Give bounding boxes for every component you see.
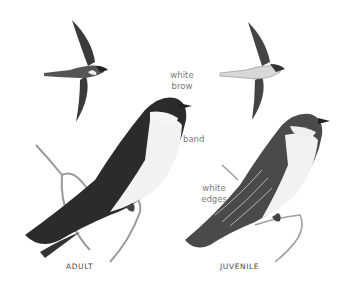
label-white-brow-line1: white: [168, 70, 196, 81]
label-white-edges-line1: white: [200, 183, 228, 194]
juvenile-perched-bird: [185, 114, 330, 248]
label-white-brow-line2: brow: [168, 81, 196, 92]
caption-adult: ADULT: [66, 262, 93, 271]
label-white-brow: white brow: [168, 70, 196, 92]
label-white-edges: white edges: [200, 183, 228, 205]
label-white-edges-line2: edges: [200, 194, 228, 205]
swallow-illustration: [0, 0, 351, 283]
adult-perched-bird: [25, 98, 192, 259]
caption-juvenile: JUVENILE: [220, 262, 259, 271]
juvenile-flight-bird: [220, 22, 285, 120]
label-band: band: [183, 134, 203, 145]
adult-flight-bird: [44, 20, 108, 122]
